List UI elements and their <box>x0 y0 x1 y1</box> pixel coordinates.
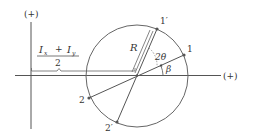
numerator-plus: + <box>55 44 63 54</box>
double-angle-label: 2θ <box>154 52 167 62</box>
angle-beta-label: β <box>165 64 171 74</box>
point-1-label: 1 <box>187 44 193 54</box>
diagram-canvas: (+) (+) I x + I y 2 R 2θ β 1 1′ 2 2′ <box>0 0 254 133</box>
mohr-circle-diagram: (+) (+) I x + I y 2 R 2θ β 1 1′ 2 2′ <box>0 0 254 133</box>
center-offset-brace <box>32 68 136 71</box>
denominator: 2 <box>55 58 61 68</box>
numerator-iy-sub: y <box>71 49 76 57</box>
point-1-prime-label: 1′ <box>160 16 168 26</box>
point-1-prime <box>155 27 158 30</box>
radius-dimension-line-b <box>135 31 153 73</box>
point-2-prime-label: 2′ <box>105 123 113 133</box>
point-2-prime <box>115 120 118 123</box>
point-1 <box>182 53 185 56</box>
point-2-label: 2 <box>79 95 85 105</box>
radius-label: R <box>129 42 138 53</box>
point-2 <box>87 96 90 99</box>
beta-arc <box>161 66 163 75</box>
horizontal-axis-label: (+) <box>223 71 238 81</box>
circle-center <box>136 74 138 76</box>
vertical-axis-label: (+) <box>24 9 39 19</box>
numerator-ix-sub: x <box>44 49 48 56</box>
